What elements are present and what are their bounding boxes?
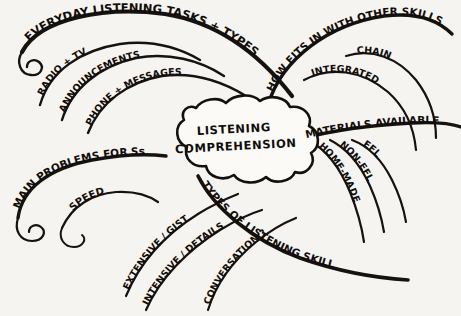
branch-label-conversation: CONVERSATION ? xyxy=(201,226,268,305)
branch-main-problems[interactable] xyxy=(17,155,166,247)
mindmap-svg: LISTENING COMPREHENSION EVERYDAY LISTENI… xyxy=(0,0,461,316)
label-text-how-fits-in: HOW FITS IN WITH OTHER SKILLS xyxy=(264,5,445,93)
label-text-efl: EFL xyxy=(361,138,383,159)
branch-label-speed: SPEED xyxy=(67,185,105,213)
branch-label-chain: CHAIN xyxy=(356,44,393,61)
label-text-everyday-listening: EVERYDAY LISTENING TASKS + TYPES xyxy=(22,1,262,59)
mindmap-canvas: LISTENING COMPREHENSION EVERYDAY LISTENI… xyxy=(0,0,461,316)
central-node-listening-comprehension[interactable]: LISTENING COMPREHENSION xyxy=(175,96,318,183)
branch-label-everyday-listening: EVERYDAY LISTENING TASKS + TYPES xyxy=(22,1,262,59)
label-text-speed: SPEED xyxy=(67,185,105,213)
label-text-materials-available: MATERIALS AVAILABLE xyxy=(304,114,440,141)
label-text-chain: CHAIN xyxy=(356,44,393,61)
branch-label-how-fits-in: HOW FITS IN WITH OTHER SKILLS xyxy=(264,5,445,93)
branch-label-integrated: INTEGRATED xyxy=(309,63,381,86)
branch-label-efl: EFL xyxy=(361,138,383,159)
branch-label-materials-available: MATERIALS AVAILABLE xyxy=(304,114,440,141)
label-text-integrated: INTEGRATED xyxy=(309,63,381,86)
label-text-conversation: CONVERSATION ? xyxy=(201,226,268,305)
